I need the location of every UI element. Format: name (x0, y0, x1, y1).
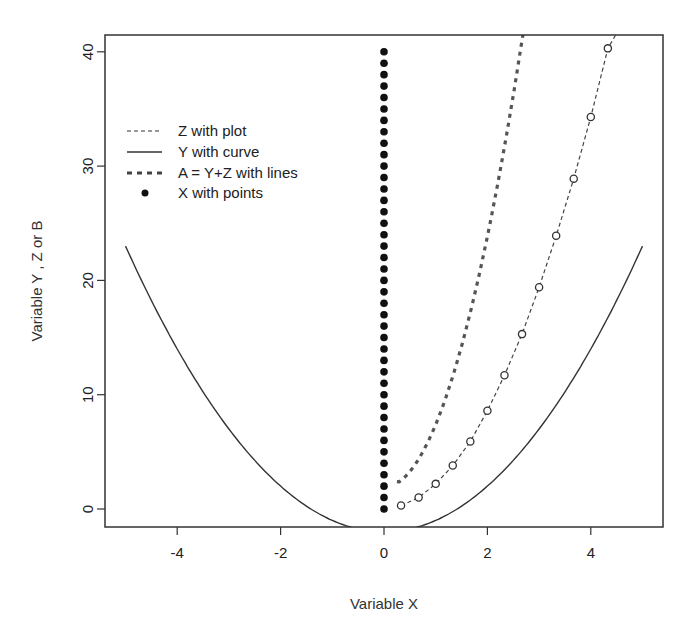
series-x-point (380, 414, 388, 422)
legend: Z with plot Y with curve A = Y+Z with li… (127, 122, 298, 201)
series-x-point (380, 48, 388, 56)
series-x-point (380, 277, 388, 285)
series-x-point (380, 299, 388, 307)
x-tick-label: 2 (483, 544, 491, 561)
series-x-point (380, 322, 388, 330)
series-x-point (380, 265, 388, 273)
series-x-point (380, 185, 388, 193)
series-x-point (380, 105, 388, 113)
series-z-point (415, 494, 422, 501)
series-x-point (380, 162, 388, 170)
series-x-point (380, 128, 388, 136)
series-z-point (449, 462, 456, 469)
series-z-point (536, 284, 543, 291)
series-x-point (380, 402, 388, 410)
series-z-point (587, 113, 594, 120)
series-x-point (380, 471, 388, 479)
series-x-point (380, 242, 388, 250)
plot-area (126, 0, 643, 532)
series-x-point (380, 368, 388, 376)
series-x-point (380, 311, 388, 319)
y-tick-label: 40 (79, 43, 96, 60)
series-z-point (518, 331, 525, 338)
series-x-point (380, 151, 388, 159)
series-x-point (380, 219, 388, 227)
series-x-point (380, 174, 388, 182)
series-a-line (397, 0, 537, 482)
legend-label-z: Z with plot (178, 122, 247, 139)
series-x-point (380, 448, 388, 456)
series-x-point (380, 459, 388, 467)
y-axis: 010203040 (79, 43, 106, 513)
series-x-point (380, 505, 388, 513)
y-tick-label: 20 (79, 272, 96, 289)
legend-label-a: A = Y+Z with lines (178, 164, 298, 181)
series-x-point (380, 82, 388, 90)
y-tick-label: 30 (79, 158, 96, 175)
legend-label-x: X with points (178, 184, 263, 201)
y-tick-label: 0 (79, 505, 96, 513)
series-x-point (380, 59, 388, 67)
x-tick-label: -2 (274, 544, 287, 561)
series-z-point (432, 480, 439, 487)
x-tick-label: 0 (380, 544, 388, 561)
series-x-point (380, 117, 388, 125)
x-axis-label: Variable X (350, 595, 418, 612)
x-tick-label: -4 (171, 544, 184, 561)
series-z-point (553, 232, 560, 239)
series-x-point (380, 345, 388, 353)
series-z-point (397, 502, 404, 509)
series-x-point (380, 94, 388, 102)
series-x-point (380, 391, 388, 399)
series-z-point (484, 407, 491, 414)
series-x-point (380, 357, 388, 365)
series-x-point (380, 334, 388, 342)
series-x-point (380, 71, 388, 79)
series-z-point (501, 372, 508, 379)
series-z-point (570, 175, 577, 182)
legend-label-y: Y with curve (178, 143, 259, 160)
series-z-line (401, 29, 619, 506)
series-x-point (380, 425, 388, 433)
series-x-point (380, 482, 388, 490)
series-x-point (380, 231, 388, 239)
series-z-point (604, 45, 611, 52)
y-axis-label: Variable Y , Z or B (28, 221, 45, 342)
series-x-point (380, 254, 388, 262)
series-x-point (380, 494, 388, 502)
series-x-point (380, 197, 388, 205)
legend-filled-point-icon (142, 190, 149, 197)
x-axis: -4-2024 (171, 527, 595, 561)
series-x-point (380, 437, 388, 445)
x-tick-label: 4 (587, 544, 595, 561)
series-x-point (380, 139, 388, 147)
y-tick-label: 10 (79, 386, 96, 403)
chart: -4-2024 010203040 Variable X Variable Y … (0, 0, 685, 634)
series-x-point (380, 379, 388, 387)
series-x-point (380, 208, 388, 216)
series-x-point (380, 288, 388, 296)
series-z-point (467, 438, 474, 445)
